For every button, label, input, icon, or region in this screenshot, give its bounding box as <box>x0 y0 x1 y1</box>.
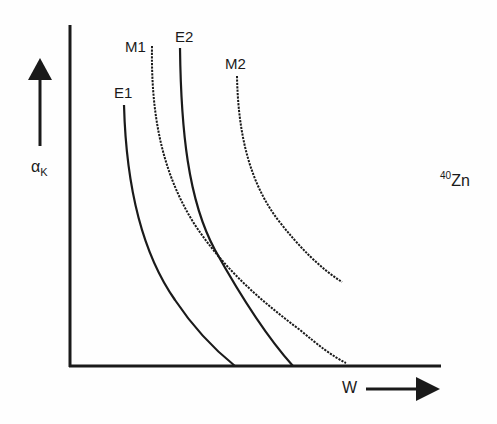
curve-e1 <box>124 105 235 366</box>
label-m1: M1 <box>125 38 146 55</box>
label-e1: E1 <box>114 84 132 101</box>
label-e2: E2 <box>175 28 193 45</box>
label-m2: M2 <box>225 55 246 72</box>
diagram-graphics <box>0 0 497 424</box>
y-axis-label: αK <box>31 158 48 176</box>
element-mass-number: 40 <box>440 170 451 181</box>
y-axis-label-main: α <box>31 158 40 175</box>
curve-m2 <box>237 76 342 282</box>
right-arrow-icon <box>366 377 440 401</box>
element-symbol: Zn <box>451 172 470 189</box>
element-label: 40Zn <box>440 172 470 190</box>
conversion-coefficient-diagram: E1 M1 E2 M2 αK W 40Zn <box>0 0 497 424</box>
y-axis-label-subscript: K <box>40 166 47 178</box>
curve-e2 <box>180 48 293 366</box>
x-axis-label: W <box>342 379 357 397</box>
up-arrow-icon <box>28 58 52 146</box>
